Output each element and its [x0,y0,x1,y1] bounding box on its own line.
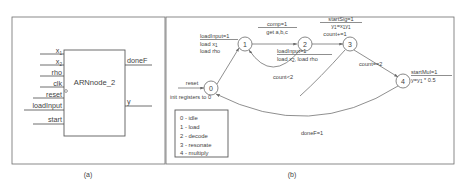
edge-condition-4-0: doneF=1 [301,130,323,136]
legend-entry-3: 3 - resonate [180,142,212,148]
edge-label-4-0-line1: y=y1 * 0.5 [411,77,436,84]
legend-entry-4: 4 - multiply [180,150,209,156]
edge-label-1-2-line0: comp=1 [267,21,287,27]
input-label-x2: x2 [56,57,63,67]
state-label-0: 0 [209,85,213,92]
edge-label-1-2-line1: get a,b,c [266,29,288,35]
legend-entry-2: 2 - decode [180,133,209,139]
output-label-y: y [127,97,131,106]
edge-label-4-0-line0: startMul=1 [411,69,437,75]
state-label-1: 1 [243,41,247,48]
input-label-rho: rho [52,68,62,77]
input-label-start: start [48,115,62,124]
input-label-loadinput: loadInput [32,101,62,110]
figure-container: ARNnode_2 x1 x2 rho clk reset loadInput … [0,0,466,193]
input-label-x1: x1 [56,46,63,56]
module-name: ARNnode_2 [74,78,115,87]
edge-condition-2-1: count<2 [273,74,293,80]
init-registers-label: init registers to 0 [170,94,211,100]
caption-panel-a: (a) [84,171,93,179]
module-block [64,50,125,136]
figure-svg: ARNnode_2 x1 x2 rho clk reset loadInput … [0,0,466,193]
edge-label-2-1-line1: load x2, load rho [277,56,318,63]
edge-0-to-1 [217,48,239,84]
state-label-4: 4 [401,78,405,85]
state-label-2: 2 [303,41,307,48]
legend-entry-1: 1 - load [180,124,200,130]
clk-bubble-icon [65,90,68,93]
caption-panel-b: (b) [288,171,297,179]
edge-label-0-1-line2: load rho [200,48,220,54]
edge-label-0-1-line0: loadInput=1 [200,33,229,39]
reset-label: reset [186,80,199,86]
edge-condition-3-4: count==2 [359,61,382,67]
state-label-3: 3 [348,41,352,48]
edge-label-2-3-line2: count+=1 [323,31,346,37]
edge-label-2-3-line0: startSig=1 [328,16,353,22]
edge-4-to-0 [216,86,398,116]
edge-label-2-1-line0: loadInput=1 [277,48,306,54]
legend-entry-0: 0 - idle [180,115,198,121]
input-label-clk: clk [53,79,62,88]
edge-label-2-3-line1: y1=x1y1 [331,23,351,30]
input-label-reset: reset [46,90,62,99]
output-label-donef: doneF [127,56,148,65]
